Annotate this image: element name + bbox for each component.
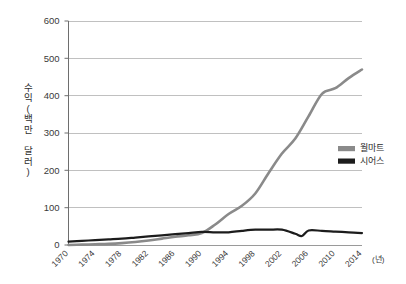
y-axis-tick-label: 100	[44, 202, 60, 213]
y-axis-title-char: 러	[24, 156, 33, 167]
y-axis-tick-label: 400	[44, 90, 60, 101]
x-axis-tick-label: 2014	[343, 248, 364, 269]
x-axis-tick-label: 1986	[156, 248, 177, 269]
x-axis-tick-labels: 1970197419781982198619901994199820022006…	[49, 248, 363, 269]
x-axis-tick-label: 1974	[76, 248, 97, 269]
gridlines-group	[69, 21, 363, 208]
y-axis-title-char: )	[26, 166, 29, 177]
legend-swatch	[338, 159, 355, 164]
y-axis-tick-labels: 0100200300400500600	[44, 15, 60, 250]
y-axis-title-char: 만	[24, 124, 33, 135]
series-line-sears	[69, 229, 363, 241]
y-axis-tick-label: 300	[44, 127, 60, 138]
legend-swatch	[338, 146, 355, 151]
y-axis-tick-label: 500	[44, 53, 60, 64]
y-axis-title: 수익(백만 달러)	[24, 82, 33, 178]
y-axis-title-char: 익	[24, 92, 33, 103]
x-axis-tick-label: 1990	[183, 248, 204, 269]
x-axis-tick-label: 1998	[236, 248, 257, 269]
chart-container: 0100200300400500600 19701974197819821986…	[0, 0, 406, 284]
x-axis-tick-label: 2006	[290, 248, 311, 269]
y-axis-title-char: 수	[24, 82, 33, 93]
y-axis-tick-label: 600	[44, 15, 60, 26]
legend: 월마트시어스	[338, 142, 384, 166]
x-axis-tick-label: 1994	[210, 248, 231, 269]
y-axis-title-char: 백	[24, 113, 33, 124]
legend-label: 시어스	[360, 156, 384, 166]
y-axis-tick-marks	[65, 21, 69, 245]
x-axis-tick-label: 1970	[49, 248, 70, 269]
legend-label: 월마트	[360, 142, 384, 153]
x-axis-tick-label: 2010	[316, 248, 337, 269]
y-axis-tick-label: 0	[54, 239, 59, 250]
x-axis-tick-label: 1978	[103, 248, 124, 269]
x-axis-tick-label: 2002	[263, 248, 284, 269]
y-axis-title-char: (	[26, 103, 30, 114]
x-axis-tick-label: 1982	[129, 248, 150, 269]
y-axis-title-char: 달	[24, 145, 33, 156]
x-axis-unit-label: (년)	[372, 254, 385, 264]
line-chart: 0100200300400500600 19701974197819821986…	[0, 0, 406, 284]
y-axis-tick-label: 200	[44, 165, 60, 176]
